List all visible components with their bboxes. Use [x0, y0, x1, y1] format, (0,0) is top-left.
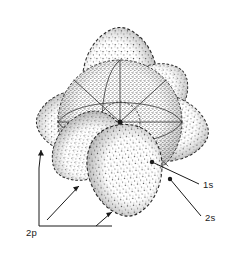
orbital-diagram-figure: 1s 2s 2p — [0, 0, 245, 260]
label-1s: 1s — [203, 179, 213, 190]
orbital-surfaces — [36, 27, 212, 219]
label-2p: 2p — [26, 227, 37, 238]
orbital-diagram-svg: 1s 2s 2p — [0, 0, 245, 260]
label-2s: 2s — [205, 212, 215, 223]
